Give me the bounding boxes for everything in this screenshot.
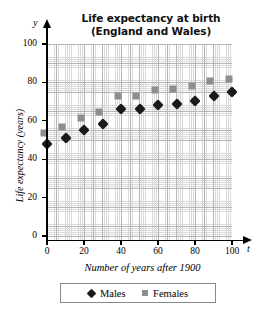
x-tick-label: 80 [182, 246, 208, 256]
y-tick [42, 120, 47, 121]
x-axis-variable: t [247, 243, 250, 254]
x-tick-label: 0 [34, 246, 60, 256]
x-tick [83, 240, 84, 245]
data-point-females [96, 108, 103, 115]
y-tick [42, 235, 47, 236]
y-tick [42, 159, 47, 160]
y-tick [42, 43, 47, 44]
chart-title-line-2: (England and Wales) [56, 25, 246, 38]
data-point-females [114, 93, 121, 100]
chart-title-line-1: Life expectancy at birth [56, 12, 246, 25]
life-expectancy-chart: Life expectancy at birth (England and Wa… [0, 0, 275, 315]
y-tick [42, 82, 47, 83]
y-tick [42, 197, 47, 198]
y-axis-arrow-icon [43, 19, 51, 28]
x-axis-label: Number of years after 1900 [35, 262, 250, 273]
x-axis-line [46, 240, 245, 242]
data-point-females [77, 115, 84, 122]
major-gridlines [47, 44, 232, 240]
data-point-females [225, 75, 232, 82]
legend-label: Males [100, 288, 126, 299]
plot-area [47, 44, 232, 240]
square-marker-icon [142, 290, 149, 297]
data-point-females [207, 77, 214, 84]
data-point-females [188, 82, 195, 89]
y-axis-variable: y [33, 17, 37, 28]
chart-title: Life expectancy at birth (England and Wa… [56, 12, 246, 37]
x-tick [46, 240, 47, 245]
legend-label: Females [153, 288, 188, 299]
x-tick [231, 240, 232, 245]
data-point-females [133, 93, 140, 100]
chart-legend: MalesFemales [60, 283, 216, 303]
x-tick [120, 240, 121, 245]
x-tick-label: 100 [219, 246, 245, 256]
diamond-marker-icon [86, 288, 96, 298]
y-axis-label: Life expectancy (years) [14, 81, 25, 231]
y-axis-line [46, 26, 48, 242]
data-point-females [59, 123, 66, 130]
x-tick-label: 40 [108, 246, 134, 256]
legend-item-females: Females [142, 288, 189, 299]
x-tick [157, 240, 158, 245]
data-point-females [170, 85, 177, 92]
y-tick-label: 0 [13, 230, 37, 240]
x-tick-label: 60 [145, 246, 171, 256]
x-tick-label: 20 [71, 246, 97, 256]
data-point-females [151, 87, 158, 94]
x-tick [194, 240, 195, 245]
y-tick-label: 100 [13, 38, 37, 48]
legend-item-males: Males [88, 288, 126, 299]
